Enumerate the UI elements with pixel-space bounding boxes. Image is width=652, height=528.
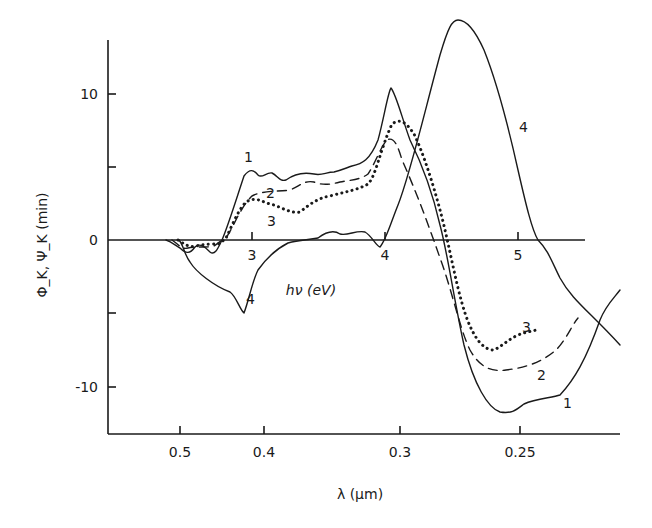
y-tick-label-0: 0: [89, 232, 98, 248]
ev-axis-title: hν (eV): [286, 282, 336, 298]
curve-label-3-top: 3: [267, 213, 276, 229]
curve-3: [178, 121, 536, 350]
x-tick-label-05: 0.5: [169, 444, 191, 460]
y-axis-title: Φ_K, Ψ_K (min): [34, 192, 50, 297]
curve-label-4-top: 4: [519, 119, 528, 135]
x-tick-label-025: 0.25: [504, 444, 535, 460]
curve-label-3-bottom: 3: [522, 319, 531, 335]
y-tick-label-m10: -10: [75, 379, 98, 395]
curve-1: [166, 88, 620, 413]
x-tick-label-03: 0.3: [389, 444, 411, 460]
curve-label-2-bottom: 2: [537, 367, 546, 383]
ev-tick-label-5: 5: [514, 247, 523, 263]
ev-tick-label-3: 3: [248, 247, 257, 263]
curve-label-1-top: 1: [244, 149, 253, 165]
curve-label-1-bottom: 1: [563, 395, 572, 411]
x-tick-label-04: 0.4: [253, 444, 275, 460]
chart-canvas: 10 0 -10 0.5 0.4 0.3 0.25 3 4 5 λ (μm) h…: [0, 0, 652, 528]
ev-tick-label-4: 4: [381, 247, 390, 263]
curve-label-4-bottom: 4: [246, 291, 255, 307]
x-axis-title: λ (μm): [337, 486, 383, 502]
curve-label-2-top: 2: [266, 185, 275, 201]
y-tick-label-10: 10: [80, 86, 98, 102]
